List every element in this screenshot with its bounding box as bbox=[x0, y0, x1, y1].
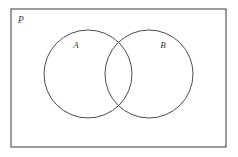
venn-diagram-figure: P A B bbox=[0, 0, 238, 157]
universal-set-label: P bbox=[17, 15, 24, 25]
set-b-label: B bbox=[160, 40, 166, 50]
universal-set-rectangle bbox=[11, 9, 226, 147]
venn-diagram-canvas: P A B bbox=[0, 0, 238, 157]
set-a-label: A bbox=[72, 40, 79, 50]
